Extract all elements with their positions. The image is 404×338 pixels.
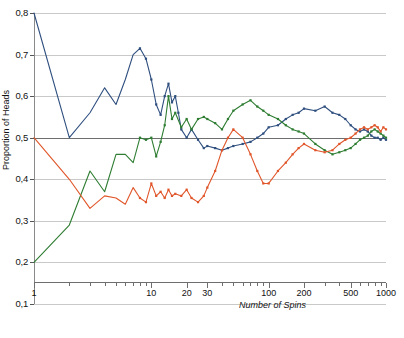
x-tick-mark <box>263 283 264 286</box>
y-tick-label: 0,8 <box>2 7 28 18</box>
y-tick-mark <box>30 179 34 180</box>
x-tick-mark <box>257 283 258 286</box>
x-tick-label: 200 <box>296 288 311 298</box>
y-tick-mark <box>30 96 34 97</box>
x-tick-mark <box>375 283 376 286</box>
y-axis-title: Proportion of Heads <box>1 90 11 170</box>
y-gridline <box>34 221 386 222</box>
y-axis-line <box>34 13 35 304</box>
x-tick-mark <box>243 283 244 286</box>
x-tick-label: 500 <box>343 288 358 298</box>
x-tick-label: 20 <box>182 288 192 298</box>
x-axis-title: Number of Spins <box>239 300 306 310</box>
y-tick-label: 0,3 <box>2 215 28 226</box>
coin-flip-convergence-chart: 0,80,70,60,50,40,30,20,1 110203010020050… <box>0 0 404 338</box>
x-tick-mark <box>69 283 70 286</box>
y-gridline <box>34 96 386 97</box>
x-tick-mark <box>116 283 117 286</box>
x-tick-mark <box>133 283 134 286</box>
x-tick-label: 1000 <box>376 288 396 298</box>
x-tick-mark <box>90 283 91 286</box>
x-tick-mark <box>381 283 382 286</box>
x-tick-mark <box>222 283 223 286</box>
y-gridline <box>34 304 386 305</box>
x-tick-label: 1 <box>31 288 36 298</box>
reference-line-half <box>34 138 386 139</box>
x-tick-mark <box>146 283 147 286</box>
x-tick-mark <box>233 283 234 286</box>
x-tick-label: 10 <box>146 288 156 298</box>
x-tick-mark <box>250 283 251 286</box>
y-tick-label: 0,7 <box>2 49 28 60</box>
y-tick-label: 0,1 <box>2 298 28 309</box>
y-gridline <box>34 262 386 263</box>
x-tick-mark <box>140 283 141 286</box>
y-tick-mark <box>30 13 34 14</box>
y-gridline <box>34 13 386 14</box>
x-axis-line <box>34 282 386 283</box>
y-tick-mark <box>30 304 34 305</box>
x-tick-mark <box>360 283 361 286</box>
y-tick-mark <box>30 55 34 56</box>
y-tick-label: 0,4 <box>2 173 28 184</box>
y-tick-mark <box>30 262 34 263</box>
x-tick-mark <box>325 283 326 286</box>
y-tick-mark <box>30 138 34 139</box>
y-tick-label: 0,2 <box>2 256 28 267</box>
x-tick-mark <box>105 283 106 286</box>
y-gridline <box>34 55 386 56</box>
x-tick-mark <box>368 283 369 286</box>
x-tick-label: 30 <box>202 288 212 298</box>
y-gridline <box>34 179 386 180</box>
plot-area <box>34 13 386 304</box>
x-tick-mark <box>339 283 340 286</box>
x-tick-label: 100 <box>261 288 276 298</box>
y-tick-mark <box>30 221 34 222</box>
x-tick-mark <box>125 283 126 286</box>
